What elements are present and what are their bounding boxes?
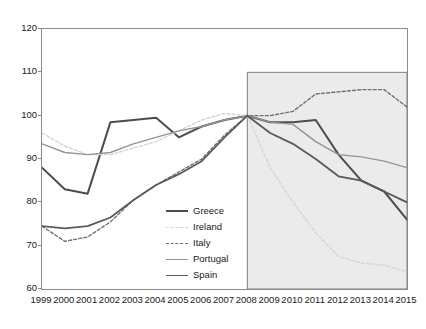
x-axis-tick-label: 2010 — [281, 295, 302, 305]
y-axis-tick-label: 60 — [26, 283, 37, 293]
legend-item-label: Portugal — [193, 254, 228, 264]
legend-item-label: Spain — [193, 270, 217, 280]
x-axis-tick-label: 2013 — [350, 295, 371, 305]
legend-swatch-icon — [166, 259, 188, 260]
y-axis-tick-label: 70 — [26, 240, 37, 250]
y-axis-tick-mark — [38, 158, 42, 159]
x-axis-tick-label: 2000 — [53, 295, 74, 305]
legend-item-italy[interactable]: Italy — [166, 235, 238, 251]
x-axis-tick-label: 2005 — [167, 295, 188, 305]
y-axis-tick-mark — [38, 201, 42, 202]
y-axis: 60708090100110120 — [0, 0, 37, 329]
x-axis-tick-label: 2004 — [144, 295, 165, 305]
x-axis-tick-label: 2009 — [259, 295, 280, 305]
legend-item-label: Italy — [193, 238, 210, 248]
x-axis-tick-label: 2015 — [395, 295, 416, 305]
y-axis-tick-label: 90 — [26, 153, 37, 163]
x-axis-tick-label: 2001 — [76, 295, 97, 305]
legend-item-portugal[interactable]: Portugal — [166, 251, 238, 267]
y-axis-tick-label: 80 — [26, 197, 37, 207]
y-axis-tick-label: 100 — [21, 110, 37, 120]
x-axis-tick-label: 2012 — [327, 295, 348, 305]
legend-swatch-icon — [166, 275, 188, 276]
legend-item-greece[interactable]: Greece — [166, 203, 238, 219]
x-axis-tick-label: 2003 — [122, 295, 143, 305]
x-axis-tick-label: 2011 — [305, 295, 325, 305]
y-axis-tick-mark — [38, 28, 42, 29]
legend-item-spain[interactable]: Spain — [166, 267, 238, 283]
x-axis-tick-label: 2008 — [236, 295, 257, 305]
x-axis-tick-label: 1999 — [30, 295, 51, 305]
legend: GreeceIrelandItalyPortugalSpain — [166, 203, 238, 283]
y-axis-tick-mark — [38, 245, 42, 246]
y-axis-tick-mark — [38, 115, 42, 116]
shaded-forecast-region — [247, 72, 407, 289]
legend-item-label: Greece — [193, 206, 224, 216]
x-axis-tick-label: 2014 — [373, 295, 394, 305]
legend-item-label: Ireland — [193, 222, 222, 232]
y-axis-tick-mark — [38, 71, 42, 72]
legend-swatch-icon — [166, 227, 188, 228]
legend-swatch-icon — [166, 210, 188, 212]
legend-item-ireland[interactable]: Ireland — [166, 219, 238, 235]
x-axis-tick-label: 2006 — [190, 295, 211, 305]
x-axis-tick-label: 2002 — [99, 295, 120, 305]
line-chart: 60708090100110120 1999200020012002200320… — [0, 0, 426, 329]
legend-swatch-icon — [166, 243, 188, 244]
y-axis-tick-label: 120 — [21, 23, 37, 33]
x-axis-tick-label: 2007 — [213, 295, 234, 305]
y-axis-tick-mark — [38, 288, 42, 289]
y-axis-tick-label: 110 — [22, 67, 37, 77]
